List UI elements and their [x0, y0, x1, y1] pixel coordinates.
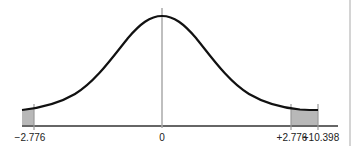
tick-label-neg-2776: −2.776: [15, 132, 46, 143]
density-curve: [22, 16, 318, 110]
tick-label-zero: 0: [159, 132, 165, 143]
t-distribution-chart: [0, 0, 354, 146]
tick-label-pos-10398: +10.398: [303, 132, 339, 143]
frame-border: [349, 0, 351, 146]
left-tail-shade: [22, 109, 34, 125]
